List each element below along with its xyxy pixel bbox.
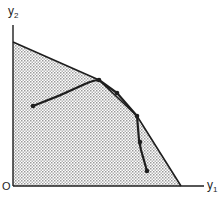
path-point-marker xyxy=(145,169,150,174)
path-point-marker xyxy=(31,104,36,109)
y1-axis-label: y1 xyxy=(207,179,217,193)
y1-label-subscript: 1 xyxy=(213,185,217,194)
path-point-marker xyxy=(115,91,120,96)
path-point-marker xyxy=(97,78,102,83)
feasible-region xyxy=(13,42,181,186)
origin-label: O xyxy=(2,180,11,192)
path-point-marker xyxy=(135,114,140,119)
feasible-region-diagram xyxy=(0,0,224,201)
y2-label-subscript: 2 xyxy=(14,11,18,20)
y2-axis-label: y2 xyxy=(8,5,18,19)
path-point-marker xyxy=(138,140,143,145)
